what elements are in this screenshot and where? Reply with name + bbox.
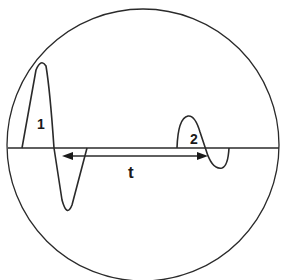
echo-diagram: 1 2 t	[0, 0, 285, 280]
arrowhead-left-icon	[62, 152, 73, 160]
display-circle	[7, 9, 279, 280]
echo-1-waveform	[22, 63, 87, 211]
echo-2-waveform	[177, 116, 229, 168]
interval-label: t	[128, 163, 134, 182]
echo-1-label: 1	[37, 116, 45, 132]
echo-2-label: 2	[190, 131, 198, 147]
